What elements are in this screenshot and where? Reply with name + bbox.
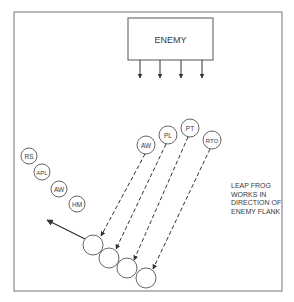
svg-text:PL: PL xyxy=(164,132,172,139)
position-circle xyxy=(99,248,119,268)
unit-apl: APL xyxy=(34,164,50,180)
position-circle xyxy=(136,268,156,288)
unit-aw-left: AW xyxy=(51,181,67,197)
svg-text:PT: PT xyxy=(186,125,194,132)
svg-text:DIRECTION OF: DIRECTION OF xyxy=(231,199,281,206)
position-circle xyxy=(117,258,137,278)
dashed-arrow-icon xyxy=(134,137,188,260)
enemy-label: ENEMY xyxy=(154,35,186,45)
svg-text:WORKS IN: WORKS IN xyxy=(231,191,266,198)
svg-text:AW: AW xyxy=(54,186,65,193)
unit-rs: RS xyxy=(21,148,37,164)
destination-positions xyxy=(83,235,156,288)
enemy-box: ENEMY xyxy=(128,18,213,60)
unit-pl: PL xyxy=(159,126,177,144)
movement-arrow-icon xyxy=(47,220,85,239)
dashed-arrow-icon xyxy=(116,144,166,249)
unit-aw-top: AW xyxy=(137,136,155,154)
leapfrog-note: LEAP FROG WORKS IN DIRECTION OF ENEMY FL… xyxy=(231,182,281,215)
svg-text:RS: RS xyxy=(24,153,34,160)
svg-text:AW: AW xyxy=(141,142,152,149)
unit-rto: RTO xyxy=(203,131,221,149)
svg-text:LEAP FROG: LEAP FROG xyxy=(231,182,271,189)
dashed-arrow-icon xyxy=(153,149,210,269)
left-group: RS APL AW HM xyxy=(21,148,85,212)
svg-text:RTO: RTO xyxy=(206,138,219,144)
svg-text:HM: HM xyxy=(72,201,82,208)
enemy-fire-arrows xyxy=(140,60,202,78)
unit-hm: HM xyxy=(69,196,85,212)
leapfrog-arrows xyxy=(101,137,210,269)
leapfrog-diagram: ENEMY RS APL AW HM xyxy=(0,0,294,302)
unit-pt: PT xyxy=(181,119,199,137)
top-group: AW PL PT RTO xyxy=(137,119,221,154)
dashed-arrow-icon xyxy=(101,154,145,236)
svg-text:APL: APL xyxy=(36,170,48,176)
svg-text:ENEMY FLANK: ENEMY FLANK xyxy=(231,208,281,215)
position-circle xyxy=(83,235,103,255)
